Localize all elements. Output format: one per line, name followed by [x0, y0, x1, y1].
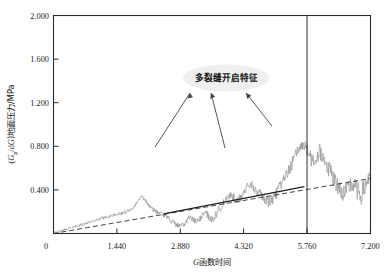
annotation-callout: 多裂缝开启特征: [183, 65, 269, 92]
y-tick-label: 0.400: [30, 186, 49, 195]
svg-text:G函数时间: G函数时间: [193, 257, 231, 267]
y-title-rest: )地面压力/MPa: [6, 84, 16, 139]
annotation-label: 多裂缝开启特征: [195, 72, 258, 83]
y-tick-label: 1.600: [30, 55, 49, 64]
y-tick-label: 1.200: [30, 99, 49, 108]
x-tick-label: 7.200: [361, 242, 380, 251]
y-tick-label: 0.800: [30, 142, 49, 151]
y-tick-label: 2.000: [30, 12, 49, 21]
x-tick-label: 4.320: [234, 242, 253, 251]
x-tick-label: 0: [44, 242, 48, 251]
x-axis-title: G函数时间: [193, 257, 231, 267]
x-tick-label: 5.760: [298, 242, 317, 251]
chart-svg: 2.000 1.600 1.200 0.800 0.400 0 1.440 2.…: [0, 0, 388, 273]
x-title-rest: 函数时间: [199, 257, 231, 267]
chart-figure: 2.000 1.600 1.200 0.800 0.400 0 1.440 2.…: [0, 0, 388, 273]
x-tick-label: 2.880: [171, 242, 190, 251]
x-tick-label: 1.440: [108, 242, 127, 251]
figure-background: [0, 0, 388, 273]
